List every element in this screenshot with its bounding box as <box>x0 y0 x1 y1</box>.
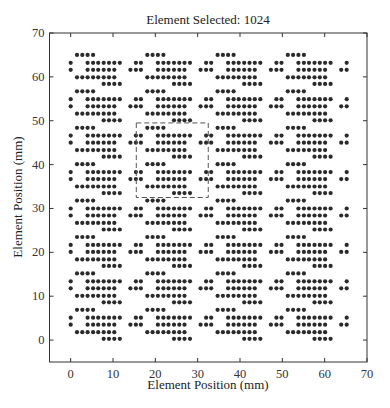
element-dot <box>253 155 257 159</box>
element-dot <box>145 112 149 116</box>
element-dot <box>345 134 349 138</box>
element-dot <box>166 243 170 247</box>
element-dot <box>166 68 170 72</box>
element-dot <box>134 323 138 327</box>
element-dot <box>161 271 165 275</box>
element-dot <box>209 141 213 145</box>
element-dot <box>139 243 143 247</box>
element-dot <box>172 227 176 231</box>
element-dot <box>128 177 132 181</box>
element-dot <box>172 191 176 195</box>
element-dot <box>156 177 160 181</box>
element-dot <box>323 104 327 108</box>
element-dot <box>172 206 176 210</box>
element-dot <box>75 89 79 93</box>
element-dot <box>286 199 290 203</box>
element-dot <box>302 257 306 261</box>
element-dot <box>204 206 208 210</box>
element-dot <box>86 235 90 239</box>
element-dot <box>232 213 236 217</box>
element-dot <box>112 257 116 261</box>
element-dot <box>118 191 122 195</box>
element-dot <box>291 89 295 93</box>
element-dot <box>112 323 116 327</box>
element-dot <box>247 227 251 231</box>
element-dot <box>75 126 79 130</box>
element-dot <box>91 184 95 188</box>
element-dot <box>232 308 236 312</box>
element-dot <box>102 118 106 122</box>
element-dot <box>188 206 192 210</box>
element-dot <box>296 126 300 130</box>
element-dot <box>247 61 251 65</box>
element-dot <box>177 68 181 72</box>
element-dot <box>221 294 225 298</box>
element-dot <box>102 191 106 195</box>
element-dot <box>318 279 322 283</box>
element-dot <box>226 271 230 275</box>
element-dot <box>80 89 84 93</box>
element-dot <box>242 243 246 247</box>
element-dot <box>118 82 122 86</box>
element-dot <box>91 148 95 152</box>
element-dot <box>177 221 181 225</box>
element-dot <box>323 184 327 188</box>
element-dot <box>156 257 160 261</box>
element-dot <box>226 170 230 174</box>
element-dot <box>247 279 251 283</box>
element-dot <box>247 221 251 225</box>
element-dot <box>177 155 181 159</box>
element-dot <box>156 308 160 312</box>
element-dot <box>156 61 160 65</box>
element-dot <box>318 286 322 290</box>
y-tick-label: 40 <box>32 158 45 172</box>
element-dot <box>302 53 306 57</box>
element-dot <box>134 61 138 65</box>
element-dot <box>258 279 262 283</box>
element-dot <box>286 89 290 93</box>
element-dot <box>307 316 311 320</box>
element-dot <box>329 264 333 268</box>
element-dot <box>307 104 311 108</box>
element-dot <box>216 112 220 116</box>
element-dot <box>226 235 230 239</box>
element-dot <box>253 337 257 341</box>
y-tick-label: 10 <box>32 289 45 303</box>
element-dot <box>107 141 111 145</box>
element-dot <box>112 191 116 195</box>
element-dot <box>112 170 116 174</box>
element-dot <box>96 97 100 101</box>
element-dot <box>329 118 333 122</box>
element-dot <box>291 112 295 116</box>
element-dot <box>107 170 111 174</box>
element-dot <box>166 206 170 210</box>
element-dot <box>156 126 160 130</box>
element-dot <box>312 227 316 231</box>
element-dot <box>302 97 306 101</box>
element-dot <box>102 148 106 152</box>
element-dot <box>177 300 181 304</box>
element-dot <box>151 221 155 225</box>
element-dot <box>177 257 181 261</box>
element-dot <box>269 177 273 181</box>
element-dot <box>253 61 257 65</box>
element-dot <box>312 141 316 145</box>
element-dot <box>296 97 300 101</box>
element-dot <box>232 250 236 254</box>
element-dot <box>188 191 192 195</box>
element-dot <box>345 279 349 283</box>
element-dot <box>156 323 160 327</box>
element-dot <box>166 75 170 79</box>
element-dot <box>296 213 300 217</box>
element-dot <box>221 199 225 203</box>
element-dot <box>86 199 90 203</box>
element-dot <box>226 213 230 217</box>
element-dot <box>75 53 79 57</box>
element-dot <box>75 308 79 312</box>
element-dot <box>156 162 160 166</box>
element-dot <box>296 286 300 290</box>
element-dot <box>323 61 327 65</box>
element-dot <box>318 243 322 247</box>
element-dot <box>91 206 95 210</box>
element-dot <box>242 118 246 122</box>
